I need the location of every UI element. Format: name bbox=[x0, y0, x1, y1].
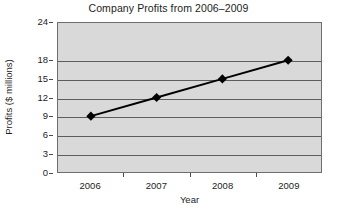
y-tick-label: 18 bbox=[37, 55, 48, 65]
x-axis-title: Year bbox=[57, 194, 322, 205]
y-tick-label: 12 bbox=[37, 93, 48, 103]
data-point-marker bbox=[218, 74, 227, 83]
y-tick-label: 6 bbox=[43, 130, 48, 140]
y-axis-ticks: 036912151824 bbox=[16, 0, 53, 215]
x-tick-mark bbox=[123, 173, 124, 177]
y-tick-mark bbox=[49, 173, 53, 174]
y-tick-label: 24 bbox=[37, 17, 48, 27]
y-tick-mark bbox=[49, 116, 53, 117]
x-tick-label: 2008 bbox=[212, 180, 233, 191]
data-point-marker bbox=[284, 56, 293, 65]
y-tick-mark bbox=[49, 135, 53, 136]
y-tick-label: 9 bbox=[43, 111, 48, 121]
y-tick-mark bbox=[49, 98, 53, 99]
x-tick-label: 2007 bbox=[146, 180, 167, 191]
x-axis-ticks: Year 2006200720082009 bbox=[57, 173, 322, 215]
y-tick-mark bbox=[49, 154, 53, 155]
y-tick-label: 3 bbox=[43, 149, 48, 159]
y-axis-title: Profits ($ millions) bbox=[3, 59, 14, 135]
x-tick-label: 2009 bbox=[278, 180, 299, 191]
y-tick-mark bbox=[49, 79, 53, 80]
x-tick-mark bbox=[190, 173, 191, 177]
y-tick-label: 0 bbox=[43, 168, 48, 178]
y-tick-mark bbox=[49, 60, 53, 61]
y-tick-label: 15 bbox=[37, 74, 48, 84]
plot-area bbox=[57, 22, 322, 173]
x-tick-mark bbox=[256, 173, 257, 177]
y-tick-mark bbox=[49, 22, 53, 23]
series-line bbox=[91, 60, 288, 116]
chart-figure: Company Profits from 2006–2009 Profits (… bbox=[0, 0, 337, 215]
data-series-line bbox=[58, 23, 321, 172]
x-tick-label: 2006 bbox=[80, 180, 101, 191]
y-axis-title-container: Profits ($ millions) bbox=[0, 18, 16, 176]
data-point-marker bbox=[152, 93, 161, 102]
data-point-marker bbox=[86, 112, 95, 121]
